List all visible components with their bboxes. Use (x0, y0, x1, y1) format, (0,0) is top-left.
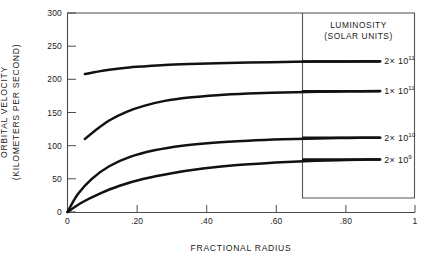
legend-base: 10 (395, 86, 408, 96)
y-axis-title-line1: ORBITAL VELOCITY (0, 66, 9, 158)
x-tick-label: 0 (65, 216, 70, 226)
legend: LUMINOSITY (SOLAR UNITS) 2× 10111× 10112… (302, 13, 415, 198)
x-tick-label: .40 (201, 216, 213, 226)
legend-base: 10 (395, 56, 408, 66)
y-tick-label: 50 (36, 174, 62, 184)
legend-exponent: 11 (408, 54, 414, 61)
y-axis-ticks (68, 13, 77, 212)
legend-label-4: 2× 109 (384, 155, 412, 165)
y-tick-label: 0 (36, 207, 62, 217)
legend-title: LUMINOSITY (SOLAR UNITS) (302, 20, 415, 42)
y-tick-label: 300 (36, 8, 62, 18)
y-tick-label: 200 (36, 74, 62, 84)
x-tick-label: .80 (340, 216, 352, 226)
legend-exponent: 9 (408, 153, 411, 160)
legend-base: 10 (395, 133, 408, 143)
y-axis-title-line2: (KILOMETERS PER SECOND) (10, 44, 20, 180)
x-tick-label: .60 (270, 216, 282, 226)
legend-label-2: 1× 1011 (384, 86, 415, 96)
legend-base: 10 (395, 155, 408, 165)
y-tick-label: 150 (36, 108, 62, 118)
x-tick-label: .20 (131, 216, 143, 226)
legend-exponent: 11 (408, 84, 414, 91)
legend-title-line1: LUMINOSITY (330, 20, 387, 30)
x-axis-title: FRACTIONAL RADIUS (191, 243, 292, 253)
chart-figure: 300 250 200 150 100 50 0 0 .20 .40 .60 .… (0, 0, 430, 259)
y-tick-label: 250 (36, 41, 62, 51)
x-axis-ticks (68, 205, 416, 213)
x-tick-label: 1 (413, 216, 418, 226)
legend-exponent: 10 (408, 131, 415, 138)
legend-label-3: 2× 1010 (384, 133, 415, 143)
y-tick-label: 100 (36, 141, 62, 151)
legend-title-line2: (SOLAR UNITS) (324, 31, 393, 41)
legend-label-1: 2× 1011 (384, 56, 415, 66)
